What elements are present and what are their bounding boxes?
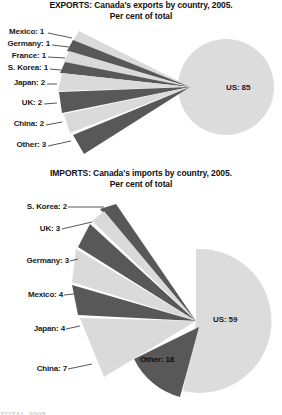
imports-label-japan: Japan: 4: [0, 324, 65, 333]
exports-label-japan: Japan: 2: [0, 78, 45, 87]
exports-plot-area: Mexico: 1 Germany: 1 France: 1 S. Korea:…: [0, 21, 282, 156]
imports-label-other: Other: 18: [140, 355, 174, 364]
imports-label-uk: UK: 3: [0, 224, 60, 233]
imports-label-mexico: Mexico: 4: [0, 290, 63, 299]
imports-label-skorea: S. Korea: 2: [0, 202, 67, 211]
imports-label-germany: Germany: 3: [0, 256, 69, 265]
imports-plot-area: S. Korea: 2 UK: 3 Germany: 3 Mexico: 4 J…: [0, 189, 282, 404]
cut-off-footer-text: TOTAL 2005: [0, 410, 282, 415]
exports-label-us: US: 85: [226, 83, 250, 92]
exports-title-line1: EXPORTS: Canada's exports by country, 20…: [49, 0, 232, 10]
exports-label-germany: Germany: 1: [0, 39, 50, 48]
imports-title-line1: IMPORTS: Canada's imports by country, 20…: [50, 168, 232, 178]
exports-label-skorea: S. Korea: 1: [0, 63, 48, 72]
exports-chart-block: EXPORTS: Canada's exports by country, 20…: [0, 0, 282, 165]
imports-chart-block: IMPORTS: Canada's imports by country, 20…: [0, 168, 282, 415]
imports-title-line2: Per cent of total: [6, 179, 276, 190]
exports-label-uk: UK: 2: [0, 98, 42, 107]
imports-label-us: US: 59: [213, 315, 237, 324]
imports-chart-title: IMPORTS: Canada's imports by country, 20…: [0, 168, 282, 189]
exports-label-china: China: 2: [0, 119, 44, 128]
exports-label-other: Other: 3: [0, 140, 46, 149]
exports-chart-title: EXPORTS: Canada's exports by country, 20…: [0, 0, 282, 21]
exports-label-france: France: 1: [0, 51, 46, 60]
exports-title-line2: Per cent of total: [6, 11, 276, 22]
exports-label-mexico: Mexico: 1: [0, 27, 44, 36]
imports-label-china: China: 7: [1, 364, 67, 373]
